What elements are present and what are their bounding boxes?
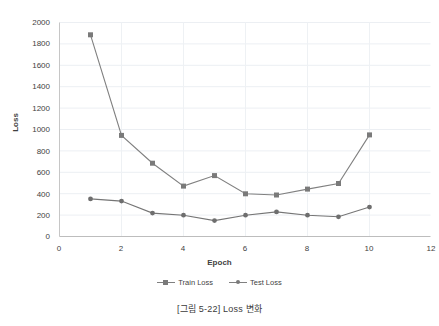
data-point [243,191,248,196]
data-point [305,213,310,218]
data-point [181,184,186,189]
legend-label: Test Loss [250,278,282,287]
data-point [119,199,124,204]
legend-marker-square-icon [157,279,175,287]
figure-container: 2000 1800 1600 1400 1200 1000 800 600 40… [0,0,439,326]
data-point [150,161,155,166]
data-point [243,213,248,218]
data-point [367,205,372,210]
data-point [181,213,186,218]
data-point [150,211,155,216]
legend-item-train-loss[interactable]: Train Loss [157,278,213,287]
data-point [274,193,279,198]
legend-marker-circle-icon [229,279,247,287]
chart-svg [0,0,439,270]
data-point [367,132,372,137]
chart-legend: Train Loss Test Loss [0,278,439,287]
data-point [212,218,217,223]
series-test-loss [88,197,372,224]
data-point [88,197,93,202]
chart-plot-area: 2000 1800 1600 1400 1200 1000 800 600 40… [0,0,439,270]
data-point [336,181,341,186]
legend-label: Train Loss [178,278,213,287]
data-point [274,210,279,215]
data-point [336,214,341,219]
data-point [212,173,217,178]
legend-item-test-loss[interactable]: Test Loss [229,278,282,287]
figure-caption: [그림 5-22] Loss 변화 [0,302,439,315]
data-point [305,187,310,192]
data-point [88,32,93,37]
data-point [119,133,124,138]
